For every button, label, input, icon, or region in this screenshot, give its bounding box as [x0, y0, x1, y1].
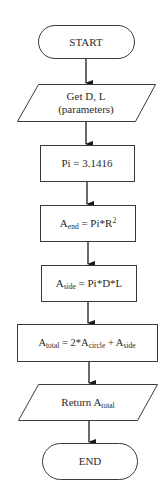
flowchart-canvas	[0, 0, 165, 501]
atotal-base: A	[38, 337, 46, 348]
output-text: Return A	[61, 396, 101, 408]
atotal-label: Atotal = 2*Acircle + Aside	[0, 336, 165, 349]
aside-base: A	[56, 277, 64, 289]
aend-sub: end	[68, 222, 79, 231]
atotal-sub3: side	[123, 341, 135, 350]
end-text: END	[79, 455, 102, 467]
aend-base: A	[60, 217, 68, 229]
aend-sup: 2	[112, 216, 116, 225]
aend-rest: = Pi*R	[79, 217, 113, 229]
input-label: Get D, L (parameters)	[0, 90, 165, 116]
output-sub: total	[101, 401, 114, 410]
atotal-sub2: circle	[89, 341, 106, 350]
aside-sub: side	[64, 282, 76, 291]
aend-label: Aend = Pi*R2	[0, 217, 165, 230]
start-text: START	[69, 36, 102, 48]
atotal-mid: = 2*A	[59, 337, 88, 348]
output-label: Return Atotal	[0, 396, 165, 409]
atotal-mid2: + A	[105, 337, 123, 348]
atotal-sub: total	[46, 341, 59, 350]
pi-text: Pi = 3.1416	[61, 157, 112, 169]
start-label: START	[0, 36, 165, 49]
aside-rest: = Pi*D*L	[76, 277, 123, 289]
aside-label: Aside = Pi*D*L	[0, 277, 165, 290]
input-line1: Get D, L	[0, 90, 165, 103]
input-line2: (parameters)	[0, 103, 165, 116]
end-label: END	[0, 455, 165, 468]
pi-label: Pi = 3.1416	[0, 157, 165, 170]
